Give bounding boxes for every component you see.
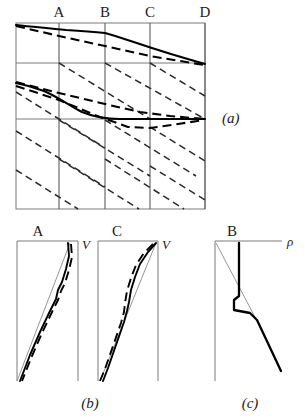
reflector-12 (150, 166, 205, 200)
subplot-a-model-dashed (22, 244, 72, 381)
subplot-a-axis-label: V (82, 237, 92, 252)
reflector-10 (105, 159, 184, 209)
mid-horizon-dashed-upper (16, 82, 204, 119)
panel-b-caption: (b) (81, 395, 99, 412)
scientific-figure: A B C D (a) A V (0, 0, 305, 419)
panel-c-subplot-b: B ρ (215, 223, 293, 381)
panel-a-label-a: A (54, 4, 65, 20)
subplot-a-title: A (33, 223, 44, 239)
reflector-3 (150, 63, 205, 96)
panel-a-caption: (a) (222, 110, 240, 127)
reflector-11 (150, 127, 205, 161)
mid-horizon-dashed-lower (16, 86, 204, 128)
panel-a-reflectors (16, 63, 205, 209)
panel-a-label-d: D (200, 4, 211, 20)
reflector-2 (105, 63, 205, 119)
subplot-b-title: B (227, 223, 237, 239)
reflector-6 (16, 170, 78, 209)
top-horizon-solid (16, 25, 205, 64)
subplot-b-density-step-solid (234, 243, 281, 371)
panel-a: A B C D (a) (16, 4, 240, 209)
subplot-c-axis-label: V (162, 237, 172, 252)
figure-root: A B C D (a) A V (0, 0, 305, 419)
subplot-b-axis-label: ρ (286, 234, 293, 249)
panel-b-subplot-a: A V (17, 223, 92, 381)
panel-a-label-c: C (145, 4, 155, 20)
top-horizon-dashed (16, 26, 204, 65)
subplot-c-title: C (112, 223, 122, 239)
subplot-a-linear-trend (17, 243, 70, 381)
panel-c-caption: (c) (242, 395, 259, 412)
panel-b-subplot-c: C V (98, 223, 172, 381)
reflector-8 (59, 159, 139, 209)
panel-a-frame (16, 23, 205, 209)
panel-a-label-b: B (100, 4, 110, 20)
